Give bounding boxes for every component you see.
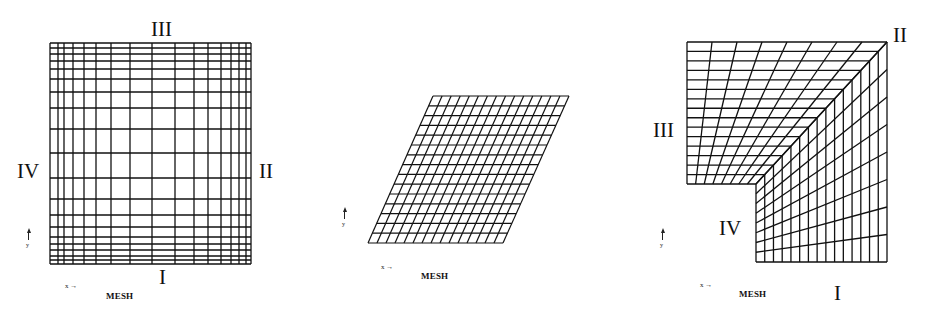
boundary-label-left: IV	[17, 161, 39, 182]
mesh-caption: MESH	[106, 291, 133, 301]
x-axis-arrow-icon: x →	[700, 281, 712, 289]
mesh-caption: MESH	[421, 271, 448, 281]
x-axis-arrow-icon: x →	[65, 282, 77, 290]
boundary-label-top: III	[151, 19, 172, 40]
panel-square-mesh: III IV II I y x → MESH	[0, 0, 310, 321]
boundary-label-bottom: I	[159, 267, 166, 288]
boundary-label-left: III	[653, 120, 674, 141]
y-axis-arrow-icon: y	[659, 228, 665, 250]
boundary-label-bottom: I	[834, 283, 841, 304]
boundary-label-right: II	[259, 161, 273, 182]
x-axis-arrow-icon: x →	[381, 263, 393, 271]
y-axis-arrow-icon: y	[341, 207, 347, 229]
mesh-caption: MESH	[739, 289, 766, 299]
boundary-label-inner: IV	[719, 218, 741, 239]
y-axis-arrow-icon: y	[25, 228, 31, 250]
boundary-label-corner: II	[893, 25, 907, 46]
